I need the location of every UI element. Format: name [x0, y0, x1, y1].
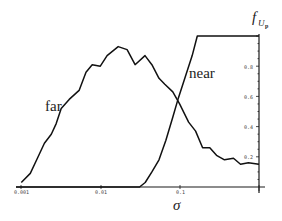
svg-text:p: p	[265, 23, 269, 29]
far-label: far	[45, 98, 62, 114]
y-axis-title: f U p	[252, 9, 269, 29]
x-tick-label: 0.1	[176, 189, 185, 195]
x-tick-label: 0.01	[95, 189, 107, 195]
x-axis-title: σ	[173, 197, 181, 213]
chart-plot: 0.001 0.01 0.1 0.8 0.6 0.4 0.2 far near …	[0, 0, 282, 221]
near-label: near	[189, 65, 215, 81]
y-tick-label: 0.8	[244, 64, 253, 70]
y-tick-label: 0.6	[244, 94, 253, 100]
y-tick-label: 0.4	[244, 124, 253, 130]
far-curve	[21, 47, 259, 183]
x-tick-label: 0.001	[14, 189, 29, 195]
svg-text:U: U	[258, 18, 265, 28]
y-tick-label: 0.2	[244, 154, 253, 160]
